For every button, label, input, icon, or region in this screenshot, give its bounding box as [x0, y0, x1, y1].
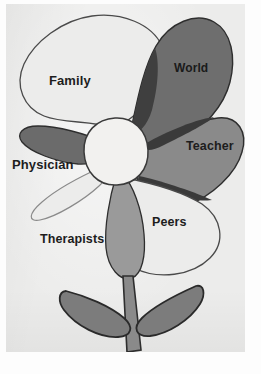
scan-margin-bottom — [0, 352, 261, 374]
flower-illustration — [0, 0, 261, 374]
leaf-right[interactable] — [136, 286, 203, 336]
petal-label-teacher: Teacher — [186, 140, 234, 153]
petal-label-family: Family — [49, 74, 91, 87]
flower-center[interactable] — [84, 118, 148, 185]
scanned-figure: Family World Teacher Physician Therapist… — [0, 0, 261, 374]
scan-margin-left — [0, 0, 6, 374]
leaf-left[interactable] — [60, 291, 131, 337]
petal-label-world: World — [174, 62, 208, 74]
stem[interactable] — [123, 276, 141, 352]
petal-label-therapists: Therapists — [40, 233, 104, 246]
petal-label-physician: Physician — [12, 158, 74, 171]
scan-margin-right — [245, 0, 261, 374]
petal-label-peers: Peers — [152, 216, 187, 229]
scan-margin-top — [0, 0, 261, 4]
